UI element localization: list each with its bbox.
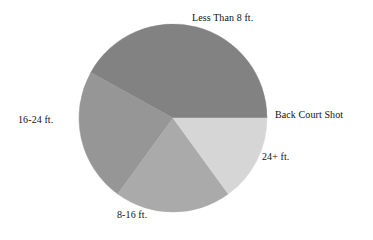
pie-label-back-court-shot: Back Court Shot (275, 109, 343, 121)
pie-label-24-plus-ft: 24+ ft. (262, 151, 289, 163)
pie-slice-group (79, 24, 267, 212)
pie-label-8-16-ft: 8-16 ft. (117, 209, 147, 221)
pie-chart-figure: Less Than 8 ft. Back Court Shot 24+ ft. … (0, 0, 373, 240)
pie-label-less-than-8-ft: Less Than 8 ft. (192, 12, 253, 24)
pie-label-16-24-ft: 16-24 ft. (18, 114, 53, 126)
